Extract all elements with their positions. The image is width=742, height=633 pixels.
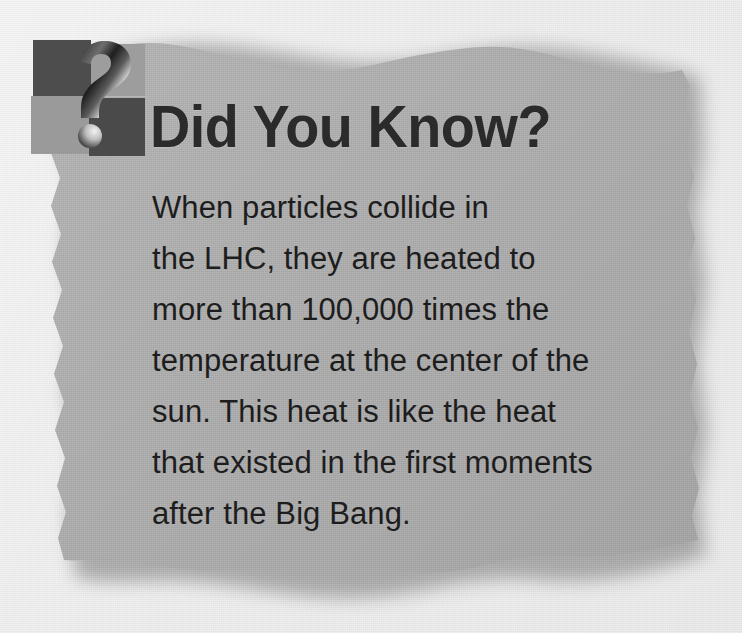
body-line: after the Big Bang.	[152, 488, 632, 539]
question-mark-badge-icon	[27, 32, 153, 162]
body-line: When particles collide in	[152, 182, 632, 233]
body-line: the LHC, they are heated to	[152, 233, 632, 284]
body-line: more than 100,000 times the	[152, 284, 632, 335]
card-body: When particles collide in the LHC, they …	[152, 182, 632, 539]
body-line: sun. This heat is like the heat	[152, 386, 632, 437]
body-line: temperature at the center of the	[152, 335, 632, 386]
card-title: Did You Know?	[150, 97, 551, 157]
did-you-know-card: Did You Know? When particles collide in …	[0, 0, 742, 633]
body-line: that existed in the first moments	[152, 437, 632, 488]
